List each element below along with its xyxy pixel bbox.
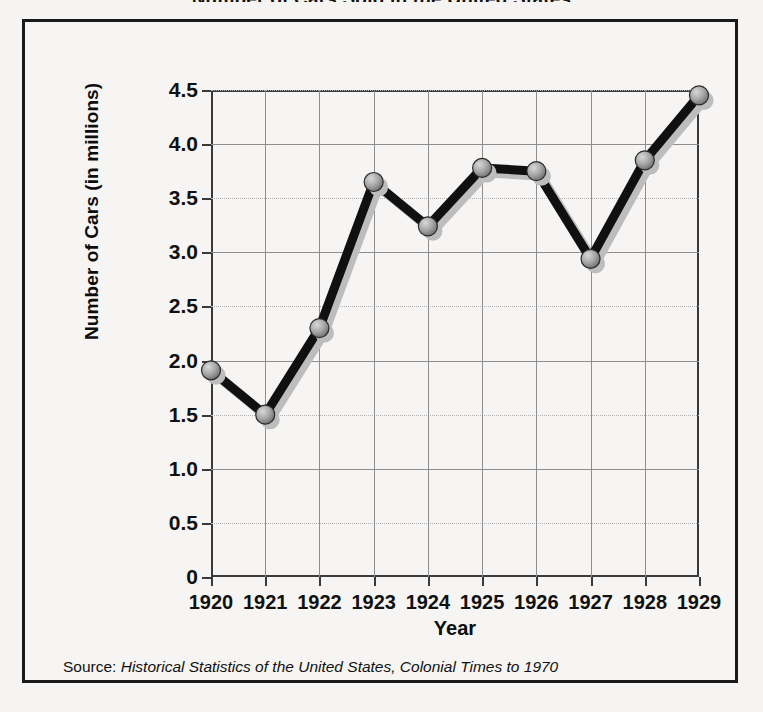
x-axis-tick bbox=[536, 577, 538, 586]
series-layer: 1920: 1.911921: 1.51922: 2.31923: 3.6519… bbox=[211, 90, 699, 577]
y-axis-label: 1.0 bbox=[169, 457, 198, 481]
y-axis-tick bbox=[202, 415, 211, 417]
x-axis-tick bbox=[482, 577, 484, 586]
y-axis-label: 2.5 bbox=[169, 294, 198, 318]
chart-title-clipped: Number of Cars Sold in the United States bbox=[0, 0, 763, 2]
y-axis-tick bbox=[202, 577, 211, 579]
y-axis-tick bbox=[202, 306, 211, 308]
data-point-marker[interactable]: 1920: 1.91 bbox=[202, 361, 221, 380]
x-axis-tick bbox=[428, 577, 430, 586]
x-axis-title: Year bbox=[211, 617, 699, 640]
data-point-marker[interactable]: 1922: 2.3 bbox=[310, 319, 329, 338]
y-axis-label: 0 bbox=[186, 565, 198, 589]
y-axis-label: 3.0 bbox=[169, 240, 198, 264]
y-axis-label: 2.0 bbox=[169, 349, 198, 373]
x-axis-tick bbox=[211, 577, 213, 586]
data-point-marker[interactable]: 1923: 3.65 bbox=[364, 172, 383, 191]
data-point-marker[interactable]: 1921: 1.5 bbox=[256, 405, 275, 424]
y-axis-tick bbox=[202, 90, 211, 92]
y-axis-label: 3.5 bbox=[169, 186, 198, 210]
data-point-marker[interactable]: 1929: 4.45 bbox=[690, 86, 709, 105]
source-prefix: Source: bbox=[63, 658, 121, 675]
y-axis-tick bbox=[202, 523, 211, 525]
x-axis-label: 1922 bbox=[297, 591, 342, 614]
x-axis-label: 1920 bbox=[189, 591, 234, 614]
source-title: Historical Statistics of the United Stat… bbox=[121, 658, 559, 675]
x-axis-label: 1924 bbox=[406, 591, 451, 614]
x-axis-tick bbox=[265, 577, 267, 586]
data-point-marker[interactable]: 1925: 3.78 bbox=[473, 158, 492, 177]
y-axis-tick bbox=[202, 144, 211, 146]
y-axis-label: 1.5 bbox=[169, 403, 198, 427]
y-axis-title: Number of Cars (in millions) bbox=[81, 83, 103, 340]
chart-page: Number of Cars Sold in the United States… bbox=[0, 0, 763, 712]
source-note: Source: Historical Statistics of the Uni… bbox=[63, 658, 558, 676]
x-axis-label: 1926 bbox=[514, 591, 559, 614]
y-axis-tick bbox=[202, 469, 211, 471]
x-axis-label: 1921 bbox=[243, 591, 288, 614]
chart-frame: Number of Cars (in millions) Year 00.51.… bbox=[22, 19, 738, 683]
x-axis-label: 1927 bbox=[568, 591, 613, 614]
y-axis-label: 4.0 bbox=[169, 132, 198, 156]
data-point-marker[interactable]: 1927: 2.94 bbox=[581, 249, 600, 268]
data-point-marker[interactable]: 1928: 3.85 bbox=[635, 151, 654, 170]
data-point-marker[interactable]: 1926: 3.75 bbox=[527, 162, 546, 181]
plot-area: 00.51.01.52.02.53.03.54.04.5192019211922… bbox=[211, 90, 699, 577]
y-axis-tick bbox=[202, 252, 211, 254]
x-axis-label: 1928 bbox=[623, 591, 668, 614]
x-axis-tick bbox=[374, 577, 376, 586]
x-axis-tick bbox=[319, 577, 321, 586]
y-axis-label: 0.5 bbox=[169, 511, 198, 535]
x-axis-label: 1925 bbox=[460, 591, 505, 614]
x-axis-label: 1923 bbox=[351, 591, 396, 614]
x-axis-tick bbox=[645, 577, 647, 586]
y-axis-label: 4.5 bbox=[169, 78, 198, 102]
x-axis-label: 1929 bbox=[677, 591, 722, 614]
x-axis-tick bbox=[591, 577, 593, 586]
series-line bbox=[211, 95, 699, 414]
data-point-marker[interactable]: 1924: 3.24 bbox=[418, 217, 437, 236]
y-axis-tick bbox=[202, 198, 211, 200]
x-axis-tick bbox=[699, 577, 701, 586]
